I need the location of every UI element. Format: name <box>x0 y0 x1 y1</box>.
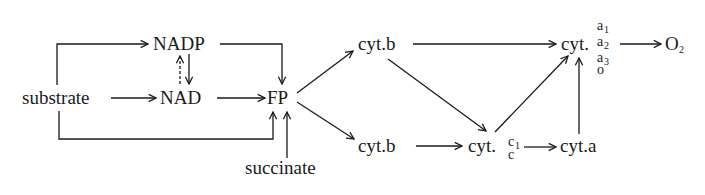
cyt-a2-letter: a <box>597 34 604 49</box>
cyt-a3-subscript: 3 <box>604 56 609 67</box>
node-substrate: substrate <box>22 87 90 108</box>
arrow-nadp-to-fp <box>220 44 282 84</box>
node-o2: O 2 <box>665 33 684 55</box>
arrow-substrate-to-fp <box>59 111 273 139</box>
node-cyt-oxidase: cyt. a 1 a 2 a 3 o <box>561 18 609 77</box>
arrow-cyt-c-to-oxidase <box>495 56 568 132</box>
arrow-cyt-b-upper-to-cyt-c <box>388 59 486 131</box>
arrow-substrate-to-nadp <box>57 44 148 85</box>
cyt-c1-subscript: 1 <box>515 140 520 151</box>
cyt-a1-letter: a <box>597 18 604 33</box>
cyt-c-lower: c <box>508 147 514 162</box>
node-succinate: succinate <box>245 157 316 178</box>
cyt-o-letter: o <box>597 62 604 77</box>
node-cyt-c1-c: cyt. c 1 c <box>468 134 520 162</box>
node-cyt-a: cyt.a <box>560 135 597 156</box>
node-nadp: NADP <box>153 33 205 54</box>
arrow-fp-to-cyt-b-upper <box>297 51 353 93</box>
o2-letter: O <box>665 33 679 54</box>
cyt-oxidase-prefix: cyt. <box>561 33 589 54</box>
o2-subscript: 2 <box>679 44 684 55</box>
cyt-c-prefix: cyt. <box>468 135 496 156</box>
pathway-diagram: substrate NADP NAD FP succinate cyt.b cy… <box>0 0 705 195</box>
node-cyt-b-lower: cyt.b <box>358 135 395 156</box>
node-nad: NAD <box>160 87 201 108</box>
node-cyt-b-upper: cyt.b <box>358 33 395 54</box>
arrow-fp-to-cyt-b-lower <box>297 102 354 139</box>
node-fp: FP <box>267 87 288 108</box>
cyt-a2-subscript: 2 <box>604 40 609 51</box>
cyt-a1-subscript: 1 <box>604 24 609 35</box>
